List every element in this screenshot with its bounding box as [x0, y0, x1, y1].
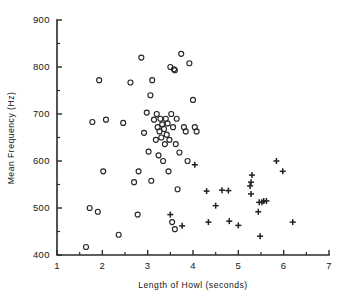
data-point-circle: [149, 178, 154, 183]
data-point-circle: [142, 130, 147, 135]
data-point-circle: [158, 116, 163, 121]
data-point-circle: [191, 97, 196, 102]
data-point-circle: [136, 169, 141, 174]
y-axis-tick-labels: 400500600700800900: [33, 14, 50, 260]
data-point-plus: [226, 218, 232, 224]
data-point-circle: [177, 150, 182, 155]
data-point-circle: [179, 51, 184, 56]
data-point-plus: [235, 222, 241, 228]
y-tick-label: 400: [33, 249, 50, 260]
data-point-circle: [162, 142, 167, 147]
data-point-circle: [144, 110, 149, 115]
x-tick-label: 6: [281, 260, 287, 271]
data-point-circle: [148, 93, 153, 98]
scatter-plot-figure: 1234567 400500600700800900 Length of How…: [0, 0, 356, 296]
data-point-plus: [192, 162, 198, 168]
data-point-plus: [213, 203, 219, 209]
data-point-plus: [219, 187, 225, 193]
data-point-plus: [290, 219, 296, 225]
data-point-plus: [205, 219, 211, 225]
data-point-circle: [161, 159, 166, 164]
data-point-circle: [139, 55, 144, 60]
data-point-circle: [128, 80, 133, 85]
data-point-circle: [185, 159, 190, 164]
data-point-plus: [225, 188, 231, 194]
data-point-circle: [174, 116, 179, 121]
x-axis-label: Length of Howl (seconds): [138, 280, 247, 290]
data-point-plus: [257, 233, 263, 239]
data-point-circle: [169, 112, 174, 117]
data-point-circle: [170, 220, 175, 225]
axis-lines: [57, 20, 329, 255]
data-point-circle: [187, 61, 192, 66]
y-axis-label: Mean Frequency (Hz): [6, 92, 16, 185]
data-point-circle: [90, 119, 95, 124]
data-point-circle: [175, 187, 180, 192]
x-tick-label: 2: [99, 260, 105, 271]
data-point-circle: [152, 117, 157, 122]
data-point-circle: [165, 121, 170, 126]
data-point-circle: [132, 180, 137, 185]
x-tick-label: 5: [235, 260, 241, 271]
data-point-plus: [280, 168, 286, 174]
y-tick-label: 800: [33, 61, 50, 72]
x-tick-label: 1: [54, 260, 60, 271]
data-point-plus: [204, 188, 210, 194]
data-point-plus: [255, 209, 261, 215]
data-point-circle: [95, 209, 100, 214]
data-point-plus: [249, 172, 255, 178]
data-series-plus: [167, 158, 295, 239]
data-point-circle: [183, 129, 188, 134]
data-point-circle: [164, 132, 169, 137]
data-point-circle: [87, 206, 92, 211]
data-point-plus: [247, 183, 253, 189]
axis-group: [57, 20, 329, 255]
data-point-circle: [150, 78, 155, 83]
x-axis-tick-labels: 1234567: [54, 260, 332, 271]
data-point-circle: [103, 117, 108, 122]
data-point-circle: [156, 153, 161, 158]
plot-canvas: 1234567 400500600700800900 Length of How…: [0, 0, 356, 296]
x-tick-label: 4: [190, 260, 196, 271]
data-point-plus: [179, 223, 185, 229]
data-point-circle: [153, 137, 158, 142]
data-point-circle: [167, 137, 172, 142]
data-point-circle: [159, 135, 164, 140]
data-point-circle: [101, 169, 106, 174]
y-tick-label: 500: [33, 202, 50, 213]
data-point-circle: [166, 169, 171, 174]
data-point-plus: [167, 212, 173, 218]
data-point-circle: [161, 127, 166, 132]
data-point-plus: [248, 191, 254, 197]
x-tick-label: 7: [326, 260, 332, 271]
data-point-circle: [171, 125, 176, 130]
data-series-open-circle: [84, 51, 200, 249]
data-point-plus: [273, 158, 279, 164]
data-point-circle: [121, 120, 126, 125]
y-tick-label: 600: [33, 155, 50, 166]
data-point-circle: [172, 227, 177, 232]
data-point-circle: [194, 129, 199, 134]
data-point-circle: [146, 149, 151, 154]
data-point-circle: [135, 212, 140, 217]
data-point-circle: [116, 232, 121, 237]
data-point-plus: [248, 179, 254, 185]
data-point-circle: [84, 245, 89, 250]
y-tick-label: 700: [33, 108, 50, 119]
data-point-circle: [173, 142, 178, 147]
y-tick-label: 900: [33, 14, 50, 25]
data-point-circle: [97, 78, 102, 83]
data-point-circle: [154, 112, 159, 117]
x-tick-label: 3: [145, 260, 151, 271]
